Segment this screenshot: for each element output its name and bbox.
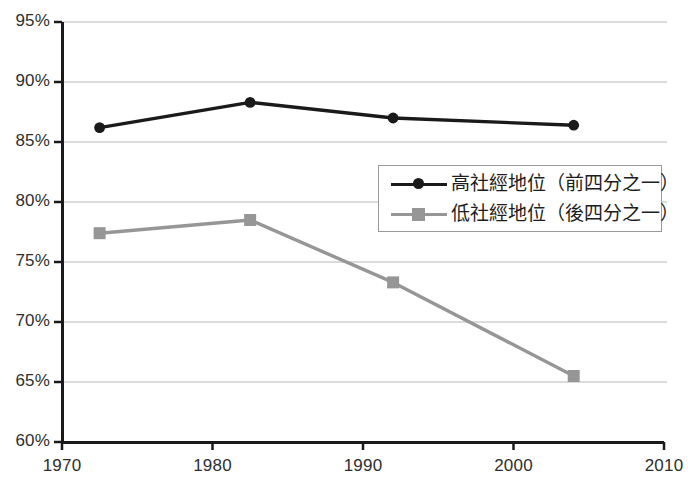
legend-swatch-high-ses: [387, 174, 451, 194]
square-marker-icon: [412, 208, 425, 221]
data-point-marker: [94, 227, 106, 239]
x-axis-tick-label: 2000: [479, 456, 549, 476]
data-point-marker: [244, 214, 256, 226]
circle-marker-icon: [413, 178, 424, 189]
y-axis-ticks-group: [54, 22, 62, 442]
y-axis-tick-label: 75%: [0, 251, 50, 271]
y-axis-tick-label: 85%: [0, 131, 50, 151]
x-axis-tick-label: 1970: [27, 456, 97, 476]
y-axis-tick-label: 90%: [0, 71, 50, 91]
series-line-high-ses: [100, 102, 574, 127]
data-point-marker: [388, 113, 399, 124]
data-point-marker: [94, 122, 105, 133]
x-axis-tick-label: 1980: [178, 456, 248, 476]
x-axis-tick-label: 1990: [328, 456, 398, 476]
series-line-low-ses: [100, 220, 574, 376]
y-axis-tick-label: 80%: [0, 191, 50, 211]
legend-label-high-ses: 高社經地位（前四分之一）: [451, 174, 679, 193]
legend-label-low-ses: 低社經地位（後四分之一）: [451, 204, 679, 223]
legend-item-low-ses: 低社經地位（後四分之一）: [387, 199, 653, 229]
data-point-marker: [245, 97, 256, 108]
data-point-marker: [568, 120, 579, 131]
y-axis-tick-label: 95%: [0, 11, 50, 31]
chart-legend: 高社經地位（前四分之一） 低社經地位（後四分之一）: [378, 165, 662, 232]
x-axis-tick-label: 2010: [629, 456, 688, 476]
y-axis-tick-label: 60%: [0, 431, 50, 451]
legend-swatch-low-ses: [387, 204, 451, 224]
data-point-marker: [387, 276, 399, 288]
data-point-marker: [568, 370, 580, 382]
y-axis-tick-label: 70%: [0, 311, 50, 331]
legend-item-high-ses: 高社經地位（前四分之一）: [387, 169, 653, 199]
y-axis-tick-label: 65%: [0, 371, 50, 391]
data-series-group: [94, 97, 580, 382]
